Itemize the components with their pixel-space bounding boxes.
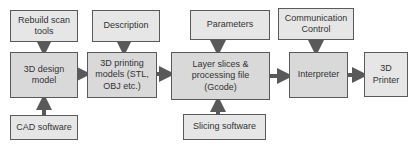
node-interpreter: Interpreter — [289, 52, 348, 98]
node-layer-slices: Layer slices & processing file (Gcode) — [171, 52, 270, 100]
node-parameters: Parameters — [190, 10, 270, 40]
node-3d-printer: 3D Printer — [364, 52, 408, 97]
node-3d-design-model: 3D design model — [10, 52, 78, 98]
node-rebuild-scan-tools: Rebuild scan tools — [10, 10, 78, 42]
node-3d-printing-models: 3D printing models (STL, OBJ etc.) — [87, 52, 157, 98]
node-slicing-software: Slicing software — [183, 114, 266, 140]
node-description: Description — [92, 10, 160, 42]
node-cad-software: CAD software — [10, 115, 78, 140]
node-communication-control: Communication Control — [278, 8, 354, 40]
